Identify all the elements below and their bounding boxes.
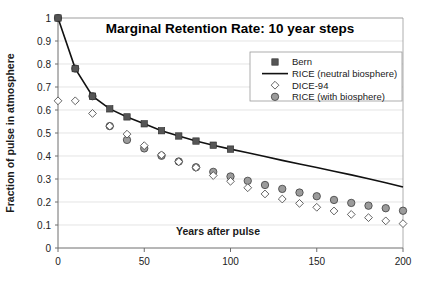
data-point <box>141 121 147 127</box>
data-point <box>330 196 337 203</box>
y-tick-label: 0.1 <box>37 220 51 231</box>
legend-label: RICE (neutral biosphere) <box>292 68 397 79</box>
y-tick-label: 0.5 <box>37 128 51 139</box>
y-tick-label: 0.7 <box>37 82 51 93</box>
y-tick-label: 0.2 <box>37 197 51 208</box>
data-point <box>210 142 216 148</box>
y-tick-label: 0 <box>45 243 51 254</box>
data-point <box>313 193 320 200</box>
x-tick-label: 150 <box>308 256 325 267</box>
legend-label: DICE-94 <box>292 80 328 91</box>
data-point <box>89 93 95 99</box>
x-tick-label: 100 <box>222 256 239 267</box>
data-point <box>399 207 406 214</box>
y-tick-label: 0.9 <box>37 36 51 47</box>
data-point <box>55 15 61 21</box>
y-tick-label: 0.3 <box>37 174 51 185</box>
retention-rate-chart: 00.10.20.30.40.50.60.70.80.91 0501001502… <box>0 0 430 287</box>
chart-legend[interactable]: BernRICE (neutral biosphere)DICE-94RICE … <box>250 52 402 102</box>
legend-marker-swatch <box>271 93 278 100</box>
data-point <box>107 106 113 112</box>
x-axis-ticks: 050100150200 <box>55 248 412 267</box>
data-point <box>176 133 182 139</box>
data-point <box>296 189 303 196</box>
legend-marker-swatch <box>272 59 278 65</box>
data-point <box>124 114 130 120</box>
x-tick-label: 200 <box>395 256 412 267</box>
legend-label: Bern <box>292 56 312 67</box>
data-point <box>158 128 164 134</box>
legend-label: RICE (with biosphere) <box>292 91 385 102</box>
y-tick-label: 1 <box>45 13 51 24</box>
data-point <box>193 138 199 144</box>
data-point <box>365 202 372 209</box>
data-point <box>382 205 389 212</box>
data-point <box>279 185 286 192</box>
x-tick-label: 50 <box>139 256 151 267</box>
chart-figure: 00.10.20.30.40.50.60.70.80.91 0501001502… <box>0 0 430 287</box>
data-point <box>227 146 233 152</box>
chart-title: Marginal Retention Rate: 10 year steps <box>106 21 354 36</box>
y-tick-label: 0.8 <box>37 59 51 70</box>
data-point <box>72 65 78 71</box>
x-axis-title: Years after pulse <box>176 225 260 237</box>
y-axis-ticks: 00.10.20.30.40.50.60.70.80.91 <box>37 13 58 254</box>
data-point <box>348 199 355 206</box>
data-point <box>261 181 268 188</box>
y-axis-title: Fraction of pulse in atmosphere <box>4 53 16 212</box>
y-tick-label: 0.6 <box>37 105 51 116</box>
x-tick-label: 0 <box>55 256 61 267</box>
y-tick-label: 0.4 <box>37 151 51 162</box>
